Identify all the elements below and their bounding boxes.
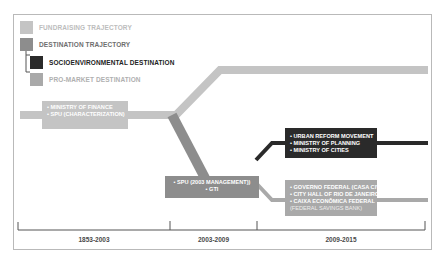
destination-swatch: [20, 38, 33, 51]
legend-label: DESTINATION TRAJECTORY: [39, 41, 130, 48]
node-pro-market: • GOVERNO FEDERAL (CASA CIVIL) • CITY HA…: [285, 180, 377, 216]
pro-market-swatch: [30, 73, 43, 86]
node-ministry-of-finance: • MINISTRY OF FINANCE • SPU (CHARACTERIZ…: [42, 101, 128, 129]
node-line: • URBAN REFORM MOVEMENT: [290, 133, 372, 140]
node-line: • GOVERNO FEDERAL (CASA CIVIL): [290, 184, 372, 191]
node-line: • SPU (2003 MANAGEMENT)): [170, 179, 254, 186]
node-socioenvironmental: • URBAN REFORM MOVEMENT • MINISTRY OF PL…: [285, 128, 377, 158]
legend-label: SOCIOENVIRONMENTAL DESTINATION: [49, 59, 174, 66]
legend-pro-market: PRO-MARKET DESTINATION: [30, 73, 141, 86]
period-label-2009-2015: 2009-2015: [257, 236, 425, 243]
node-spu-management: • SPU (2003 MANAGEMENT)) • GTI: [165, 176, 259, 198]
legend-label: FUNDRAISING TRAJECTORY: [39, 24, 132, 31]
destination-trajectory-path: [172, 115, 205, 178]
socioenvironmental-swatch: [30, 56, 43, 69]
node-line: • CAIXA ECONÔMICA FEDERAL: [290, 198, 372, 205]
node-line: • MINISTRY OF FINANCE: [47, 104, 123, 111]
timeline-axis: [18, 221, 425, 230]
legend-label: PRO-MARKET DESTINATION: [49, 76, 141, 83]
legend-destination: DESTINATION TRAJECTORY: [20, 38, 130, 51]
period-label-1853-2003: 1853-2003: [18, 236, 170, 243]
node-line: • SPU (CHARACTERIZATION): [47, 111, 123, 118]
node-subline: (FEDERAL SAVINGS BANK): [290, 205, 372, 212]
node-line: • MINISTRY OF CITIES: [290, 147, 372, 154]
legend-socioenvironmental: SOCIOENVIRONMENTAL DESTINATION: [30, 56, 174, 69]
period-label-2003-2009: 2003-2009: [170, 236, 257, 243]
fundraising-swatch: [20, 21, 33, 34]
legend-fundraising: FUNDRAISING TRAJECTORY: [20, 21, 132, 34]
node-line: • MINISTRY OF PLANNING: [290, 140, 372, 147]
node-line: • GTI: [170, 186, 254, 193]
node-line: • CITY HALL OF RIO DE JANEIRO: [290, 191, 372, 198]
